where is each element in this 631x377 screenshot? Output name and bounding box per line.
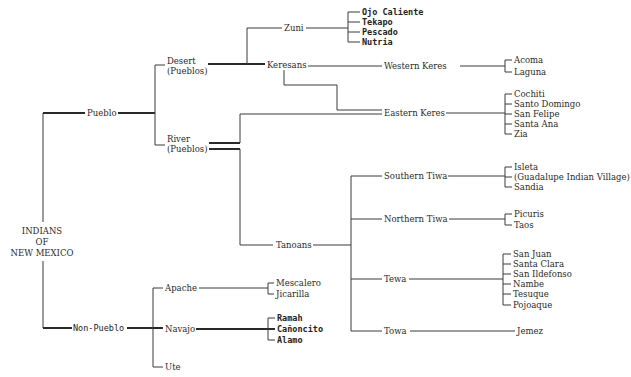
- leaf-sandia: Sandia: [513, 182, 545, 192]
- leaf-tesuque: Tesuque: [512, 289, 550, 299]
- leaf-tekapo: Tekapo: [361, 17, 394, 27]
- leaf-pojoaque: Pojoaque: [512, 300, 553, 310]
- leaf-mescalero: Mescalero: [275, 278, 322, 288]
- leaf-isleta: Isleta: [513, 162, 539, 172]
- root-label-line-3: NEW MEXICO: [4, 248, 80, 259]
- leaf-santa-ana: Santa Ana: [513, 119, 559, 129]
- node-keresans: Keresans: [266, 60, 308, 70]
- leaf-laguna: Laguna: [513, 67, 547, 77]
- node-desert-line-1: Desert: [166, 56, 197, 66]
- leaf-ojo-caliente: Ojo Caliente: [361, 7, 424, 17]
- node-non-pueblo: Non-Pueblo: [72, 323, 125, 333]
- node-navajo: Navajo: [164, 324, 196, 334]
- node-ute: Ute: [164, 362, 182, 372]
- leaf-san-felipe: San Felipe: [513, 109, 560, 119]
- node-pueblo: Pueblo: [86, 108, 118, 118]
- node-tanoans: Tanoans: [275, 240, 313, 250]
- leaf-cochiti: Cochiti: [513, 89, 546, 99]
- leaf-san-juan: San Juan: [512, 249, 553, 259]
- leaf-nutria: Nutria: [361, 37, 394, 47]
- leaf-jemez: Jemez: [516, 326, 544, 336]
- node-northern-tiwa: Northern Tiwa: [383, 214, 449, 224]
- leaf-santa-clara: Santa Clara: [512, 259, 565, 269]
- leaf-alamo: Alamo: [276, 335, 304, 345]
- leaf-santo-domingo: Santo Domingo: [513, 99, 581, 109]
- leaf-pescado: Pescado: [361, 27, 399, 37]
- node-eastern-keres: Eastern Keres: [383, 108, 446, 118]
- node-apache: Apache: [164, 283, 198, 293]
- root-label-line-2: OF: [4, 237, 80, 248]
- node-southern-tiwa: Southern Tiwa: [383, 171, 448, 181]
- node-towa: Towa: [383, 326, 407, 336]
- node-zuni: Zuni: [283, 23, 305, 33]
- leaf-picuris: Picuris: [513, 209, 545, 219]
- leaf-guadalupe-indian-village: (Guadalupe Indian Village): [513, 172, 631, 182]
- node-river-line-1: River: [166, 134, 191, 144]
- node-desert-line-2: (Pueblos): [166, 66, 209, 76]
- leaf-canoncito: Cañoncito: [276, 324, 324, 334]
- node-river-line-2: (Pueblos): [166, 144, 209, 154]
- root-label-line-1: INDIANS: [4, 226, 80, 237]
- leaf-acoma: Acoma: [513, 55, 544, 65]
- leaf-jicarilla: Jicarilla: [275, 289, 310, 299]
- node-tewa: Tewa: [383, 274, 407, 284]
- node-western-keres: Western Keres: [383, 61, 448, 71]
- leaf-taos: Taos: [513, 220, 535, 230]
- root-node: INDIANS OF NEW MEXICO: [4, 224, 80, 261]
- leaf-san-ildefonso: San Ildefonso: [512, 269, 573, 279]
- indians-of-new-mexico-tree-diagram: INDIANS OF NEW MEXICO Pueblo Non-Pueblo …: [0, 0, 631, 377]
- leaf-zia: Zia: [513, 129, 529, 139]
- leaf-ramah: Ramah: [276, 313, 304, 323]
- leaf-nambe: Nambe: [512, 279, 545, 289]
